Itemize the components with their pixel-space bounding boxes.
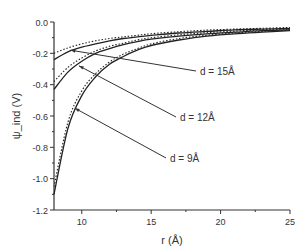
annotation-arrow [75, 108, 166, 158]
line-chart: 0.0-0.2-0.4-0.6-0.8-1.0-1.210152025 d = … [0, 0, 307, 251]
annotation-arrow [71, 50, 196, 71]
x-axis-label: r (Å) [161, 234, 182, 246]
y-tick-label: -1.2 [32, 206, 48, 216]
curve-d-9-solid- [54, 31, 290, 195]
y-tick-label: -0.6 [32, 112, 48, 122]
annotations: d = 15Åd = 12Åd = 9Å [71, 49, 235, 164]
annotation-label: d = 9Å [170, 152, 200, 164]
arrowhead-icon [75, 108, 80, 112]
x-tick-label: 10 [77, 217, 87, 227]
annotation-label: d = 15Å [200, 65, 235, 77]
x-tick-label: 15 [146, 217, 156, 227]
y-axis-label: ψ_ind (V) [10, 93, 22, 139]
x-tick-label: 25 [285, 217, 295, 227]
x-tick-label: 20 [216, 217, 226, 227]
y-tick-label: 0.0 [35, 18, 48, 28]
chart-container: 0.0-0.2-0.4-0.6-0.8-1.0-1.210152025 d = … [0, 0, 307, 251]
y-tick-label: -0.8 [32, 143, 48, 153]
y-tick-label: -0.4 [32, 80, 48, 90]
annotation-label: d = 12Å [180, 111, 215, 123]
y-tick-label: -0.2 [32, 49, 48, 59]
annotation-arrow [79, 66, 176, 117]
arrowhead-icon [79, 66, 84, 70]
y-tick-label: -1.0 [32, 174, 48, 184]
curves [54, 28, 290, 195]
axes: 0.0-0.2-0.4-0.6-0.8-1.0-1.210152025 [32, 18, 295, 228]
